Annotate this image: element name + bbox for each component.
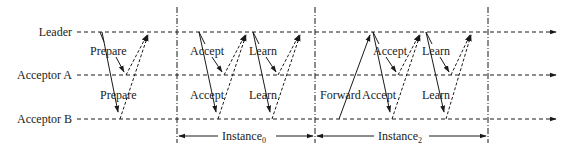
accept0-arrow-to-a (212, 57, 222, 72)
message-label-accept0-a: Accept (190, 44, 225, 58)
diagram-svg: Leader Acceptor A Acceptor B Prepare Pre… (0, 0, 571, 155)
forward-message (339, 35, 370, 119)
message-label-accept2-b: Accept (362, 88, 397, 102)
message-label-learn2-b: Learn (422, 88, 450, 102)
message-label-learn0-a: Learn (249, 44, 277, 58)
message-label-forward: Forward (320, 88, 361, 102)
participant-label-acceptor-a: Acceptor A (17, 68, 72, 82)
participant-label-acceptor-b: Acceptor B (17, 112, 72, 126)
message-label-prepare-b: Prepare (100, 88, 137, 102)
forward-arrow (339, 35, 370, 119)
message-label-accept2-a: Accept (373, 44, 408, 58)
message-label-learn2-a: Learn (422, 44, 450, 58)
learn0-arrow-to-a (266, 57, 276, 72)
message-label-prepare-a: Prepare (90, 44, 127, 58)
paxos-timeline-diagram: Leader Acceptor A Acceptor B Prepare Pre… (0, 0, 571, 155)
accept2-arrow-to-a (386, 57, 396, 72)
instance0-label: Instance0 (222, 129, 266, 145)
learn2-arrow-to-a (440, 57, 449, 72)
timelines (77, 32, 556, 119)
message-label-learn0-b: Learn (249, 88, 277, 102)
message-label-accept0-b: Accept (190, 88, 225, 102)
prepare-arrow-to-a (116, 57, 124, 72)
participant-label-leader: Leader (39, 25, 72, 39)
instance2-label: Instance2 (378, 129, 422, 145)
